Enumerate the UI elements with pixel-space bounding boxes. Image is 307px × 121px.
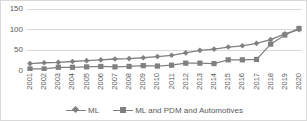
legend-label-ml: ML [88, 106, 99, 115]
data-point [282, 32, 287, 37]
legend-item-ml-pdm-automotives: ML and PDM and Automotives [113, 106, 243, 115]
data-point [127, 64, 132, 69]
data-point [254, 57, 259, 62]
data-point [112, 64, 117, 69]
x-tick-label-2006: 2006 [97, 73, 105, 90]
data-point [140, 55, 146, 61]
data-point [70, 59, 76, 65]
legend-item-ml: ML [66, 106, 99, 115]
data-point [296, 26, 301, 31]
data-point [211, 46, 217, 52]
x-axis: 2001200220032004200520062007200820092010… [27, 73, 302, 101]
y-tick-label-150: 150 [1, 5, 23, 13]
y-tick-label-100: 100 [1, 26, 23, 34]
data-point [126, 56, 132, 62]
data-point [211, 61, 216, 66]
x-tick-label-2003: 2003 [54, 73, 62, 90]
square-marker-icon [113, 106, 133, 115]
plot-area [27, 9, 302, 71]
data-point [27, 61, 33, 67]
x-tick-label-2020: 2020 [295, 73, 303, 90]
x-tick-label-2012: 2012 [182, 73, 190, 90]
legend-label-ml-pdm-automotives: ML and PDM and Automotives [135, 106, 243, 115]
data-point [197, 61, 202, 66]
x-tick-label-2019: 2019 [281, 73, 289, 90]
data-point [225, 44, 231, 50]
series-line-2 [30, 28, 299, 69]
data-point [197, 48, 203, 54]
data-point [27, 66, 32, 71]
x-tick-label-2014: 2014 [210, 73, 218, 90]
x-tick-label-2004: 2004 [68, 73, 76, 90]
data-point [268, 42, 273, 47]
chart-legend: ML ML and PDM and Automotives [1, 102, 307, 118]
data-point [240, 57, 245, 62]
data-point [55, 59, 61, 65]
data-point [254, 40, 260, 46]
data-point [42, 66, 47, 71]
data-point [141, 63, 146, 68]
x-tick-label-2008: 2008 [125, 73, 133, 90]
data-point [84, 64, 89, 69]
y-tick-label-0: 0 [1, 67, 23, 75]
data-point [98, 57, 104, 63]
data-point [112, 56, 118, 62]
data-point [56, 65, 61, 70]
x-tick-label-2013: 2013 [196, 73, 204, 90]
y-tick-label-50: 50 [1, 46, 23, 54]
data-point [155, 63, 160, 68]
x-tick-label-2016: 2016 [238, 73, 246, 90]
diamond-marker-icon [66, 106, 86, 115]
data-point [169, 52, 175, 58]
data-point [98, 64, 103, 69]
series-layer [27, 26, 302, 71]
x-tick-label-2005: 2005 [83, 73, 91, 90]
data-point [240, 43, 246, 49]
x-tick-label-2015: 2015 [224, 73, 232, 90]
line-chart: 150 100 50 0 200120022003200420052006200… [0, 0, 307, 121]
data-point [226, 57, 231, 62]
x-tick-label-2001: 2001 [26, 73, 34, 90]
data-point [41, 60, 47, 66]
data-point [169, 63, 174, 68]
data-point [84, 58, 90, 64]
x-tick-label-2017: 2017 [253, 73, 261, 90]
data-point [183, 61, 188, 66]
x-tick-label-2010: 2010 [153, 73, 161, 90]
x-tick-label-2007: 2007 [111, 73, 119, 90]
x-tick-label-2018: 2018 [267, 73, 275, 90]
data-point [155, 54, 161, 60]
x-tick-label-2009: 2009 [139, 73, 147, 90]
data-point [70, 65, 75, 70]
x-tick-label-2002: 2002 [40, 73, 48, 90]
x-tick-label-2011: 2011 [168, 73, 176, 89]
